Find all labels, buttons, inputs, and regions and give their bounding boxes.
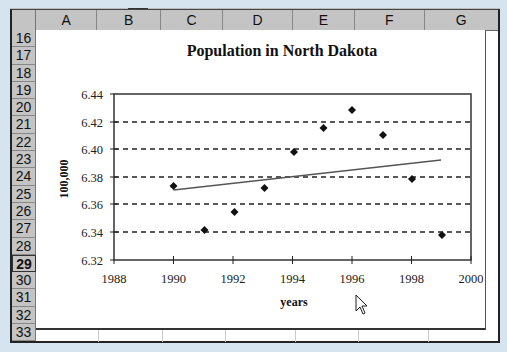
row-header-32[interactable]: 32 [12, 307, 36, 324]
row-headers: 16 17 18 19 20 21 22 23 24 25 26 27 28 2… [12, 30, 36, 341]
cell-gridline [295, 330, 296, 342]
row-header-17[interactable]: 17 [12, 47, 36, 64]
y-tick-label: 6.42 [81, 116, 103, 130]
column-header-c[interactable]: C [161, 10, 223, 30]
row-header-16[interactable]: 16 [12, 30, 36, 47]
row-header-27[interactable]: 27 [12, 220, 36, 237]
row-header-19[interactable]: 19 [12, 82, 36, 99]
y-tick-label: 6.44 [81, 88, 104, 102]
x-tick-label: 1996 [340, 272, 365, 286]
spreadsheet: A B C D E F G 16 17 18 19 20 21 22 23 24… [10, 9, 500, 343]
row-header-22[interactable]: 22 [12, 134, 36, 151]
column-header-a[interactable]: A [36, 10, 98, 30]
select-all-corner[interactable] [12, 10, 36, 30]
chart-object[interactable]: Population in North Dakota [36, 30, 486, 330]
row-header-25[interactable]: 25 [12, 186, 36, 203]
row-header-29[interactable]: 29 [12, 255, 36, 272]
cell-gridline [162, 330, 163, 342]
cell-gridline [98, 330, 99, 342]
mouse-cursor-icon [356, 295, 367, 314]
y-tick-label: 6.34 [81, 226, 104, 240]
column-header-b[interactable]: B [97, 10, 160, 30]
cell-gridline [358, 330, 359, 342]
x-tick-label: 2000 [459, 272, 484, 286]
column-headers: A B C D E F G [12, 10, 498, 31]
column-header-g[interactable]: G [425, 10, 498, 30]
row-header-18[interactable]: 18 [12, 65, 36, 82]
row-header-28[interactable]: 28 [12, 238, 36, 255]
y-tick-label: 6.40 [81, 143, 103, 157]
cell-gridline [428, 330, 429, 342]
x-tick-label: 1998 [399, 272, 424, 286]
chart-title: Population in North Dakota [187, 42, 378, 60]
row-header-24[interactable]: 24 [12, 168, 36, 185]
column-header-e[interactable]: E [293, 10, 355, 30]
y-tick-label: 6.36 [81, 198, 103, 212]
column-header-d[interactable]: D [223, 10, 292, 30]
y-tick-label: 6.38 [81, 171, 103, 185]
scatter-chart: Population in North Dakota [36, 30, 486, 330]
row-header-26[interactable]: 26 [12, 203, 36, 220]
x-tick-label: 1990 [161, 272, 186, 286]
x-tick-label: 1992 [221, 272, 246, 286]
x-axis-title: years [280, 295, 308, 309]
y-tick-label: 6.32 [81, 254, 103, 268]
x-axis-labels: 1988 1990 1992 1994 1996 1998 2000 [102, 272, 484, 286]
row-header-30[interactable]: 30 [12, 272, 36, 289]
row-header-21[interactable]: 21 [12, 116, 36, 133]
column-header-f[interactable]: F [355, 10, 424, 30]
y-axis-title: 100,000 [57, 160, 71, 199]
x-tick-label: 1988 [102, 272, 127, 286]
row-header-31[interactable]: 31 [12, 289, 36, 306]
cell-gridline [225, 330, 226, 342]
y-axis-labels: 6.44 6.42 6.40 6.38 6.36 6.34 6.32 [81, 88, 104, 268]
row-header-33[interactable]: 33 [12, 324, 36, 341]
x-tick-label: 1994 [280, 272, 306, 286]
row-header-20[interactable]: 20 [12, 99, 36, 116]
row-header-23[interactable]: 23 [12, 151, 36, 168]
